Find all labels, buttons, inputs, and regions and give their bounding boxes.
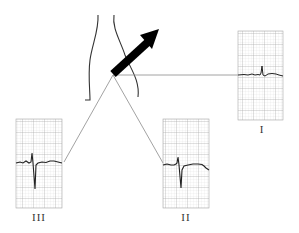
lead-I-strip <box>238 31 283 120</box>
lead-II-strip <box>163 119 209 208</box>
lead-I-label: I <box>247 123 277 135</box>
lead-III-label: III <box>24 211 54 223</box>
lead-connectors <box>64 75 238 163</box>
lead-II-label: II <box>171 211 201 223</box>
connector-lead-III <box>64 75 113 162</box>
lead-III-strip <box>16 119 62 208</box>
axis-arrow-icon <box>113 29 159 74</box>
ecg-lead-diagram <box>0 0 299 233</box>
